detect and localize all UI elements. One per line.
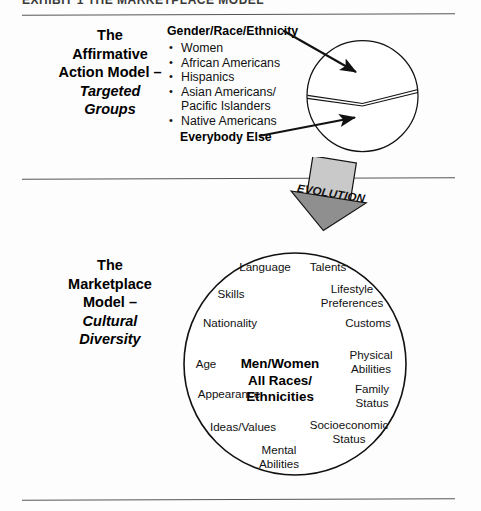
group-items: • Women • African Americans • Hispanics …: [167, 41, 302, 129]
dimension-physical-abilities: Physical Abilities: [340, 348, 402, 375]
list-item: • Native Americans: [167, 114, 302, 129]
targeted-groups-list: Gender/Race/Ethnicity • Women • African …: [167, 24, 302, 129]
list-title: Gender/Race/Ethnicity: [167, 24, 302, 39]
heading-line: Marketplace: [34, 275, 186, 294]
list-item: • Asian Americans/ Pacific Islanders: [167, 85, 302, 114]
heading-line: Action Model –: [34, 63, 186, 82]
list-item-label: African Americans: [181, 56, 280, 70]
list-item: • Hispanics: [167, 70, 302, 85]
dimension-mental-abilities: Mental Abilities: [248, 443, 310, 470]
bullet-icon: •: [169, 55, 173, 70]
bullet-icon: •: [169, 113, 173, 128]
dimension-lifestyle-preferences: Lifestyle Preferences: [316, 282, 388, 309]
dimension-language: Language: [230, 260, 300, 274]
heading-line: The: [34, 256, 186, 275]
bullet-icon: •: [169, 84, 173, 99]
affirmative-pie-circle: [307, 41, 418, 152]
everybody-else-label: Everybody Else: [180, 130, 272, 144]
exhibit-caption: EXHIBIT 1 THE MARKETPLACE MODEL: [22, 0, 322, 5]
heading-line-italic: Cultural: [34, 312, 186, 331]
marketplace-model-heading: The Marketplace Model – Cultural Diversi…: [34, 256, 186, 349]
divider-bottom: [22, 498, 455, 501]
divider-middle: [22, 177, 455, 180]
heading-line: The: [34, 26, 186, 45]
list-item-label: Native Americans: [181, 114, 277, 128]
dimension-socioeconomic-status: Socioeconomic Status: [303, 418, 395, 445]
dimension-family-status: Family Status: [343, 382, 401, 409]
dimension-ideas-values: Ideas/Values: [204, 420, 282, 434]
dimension-skills: Skills: [206, 287, 256, 301]
dimension-talents: Talents: [300, 260, 356, 274]
list-item: • African Americans: [167, 56, 302, 71]
marketplace-center-label: Men/Women All Races/ Ethnicities: [222, 356, 338, 406]
heading-line-italic: Targeted: [34, 82, 186, 101]
heading-line: Affirmative: [34, 45, 186, 64]
heading-line: Model –: [34, 293, 186, 312]
list-item-label: Asian Americans/: [181, 85, 276, 99]
list-item: • Women: [167, 41, 302, 56]
list-item-label: Women: [181, 41, 223, 55]
list-item-continuation: Pacific Islanders: [181, 99, 302, 114]
dimension-nationality: Nationality: [192, 316, 268, 330]
divider-top: [22, 13, 455, 16]
pie-wedge-lower-edge: [307, 93, 418, 107]
dimension-customs: Customs: [335, 316, 401, 330]
bullet-icon: •: [169, 69, 173, 84]
dimension-age: Age: [188, 357, 224, 371]
bullet-icon: •: [169, 40, 173, 55]
affirmative-model-heading: The Affirmative Action Model – Targeted …: [34, 26, 186, 119]
diagram-page: EXHIBIT 1 THE MARKETPLACE MODEL The Affi…: [0, 0, 481, 511]
heading-line-italic: Diversity: [34, 330, 186, 349]
list-item-label: Hispanics: [181, 70, 234, 84]
pie-wedge-upper-edge: [307, 90, 418, 104]
heading-line-italic: Groups: [34, 100, 186, 119]
